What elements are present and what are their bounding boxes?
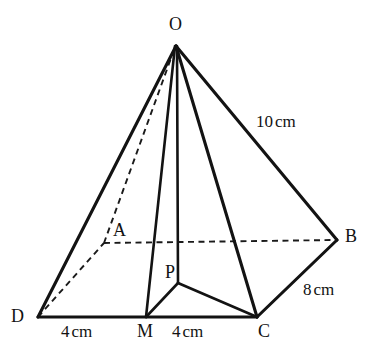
measure-value-base-left: 4: [61, 322, 70, 341]
edge-P-M: [146, 283, 178, 317]
measure-label-base-half-right: 4cm: [172, 323, 203, 340]
vertex-label-C: C: [258, 322, 270, 340]
edge-O-B: [176, 46, 337, 240]
edge-P-C: [178, 283, 257, 317]
edge-O-P: [177, 46, 178, 283]
edge-O-C: [176, 46, 257, 317]
vertex-label-A: A: [113, 221, 126, 239]
vertex-label-P: P: [165, 263, 175, 281]
measure-value-base-right: 4: [172, 322, 181, 341]
edge-O-D: [38, 46, 176, 317]
measure-label-base-half-left: 4cm: [61, 323, 92, 340]
measure-label-slant-edge: 10cm: [256, 113, 296, 130]
vertex-label-O: O: [169, 15, 182, 33]
measure-unit-base-right: cm: [183, 322, 204, 341]
measure-unit-slant: cm: [275, 112, 296, 131]
geometry-figure: O A B C D M P 10cm 8cm 4cm 4cm: [0, 0, 372, 360]
vertex-label-B: B: [345, 227, 357, 245]
measure-value-slant: 10: [256, 112, 273, 131]
measure-unit-side: cm: [314, 280, 335, 299]
measure-value-side: 8: [303, 280, 312, 299]
measure-label-base-side: 8cm: [303, 281, 334, 298]
vertex-label-D: D: [11, 307, 24, 325]
pyramid-drawing: [0, 0, 372, 360]
edge-A-B: [104, 240, 336, 243]
measure-unit-base-left: cm: [72, 322, 93, 341]
vertex-label-M: M: [137, 322, 153, 340]
edge-C-B: [257, 240, 337, 317]
